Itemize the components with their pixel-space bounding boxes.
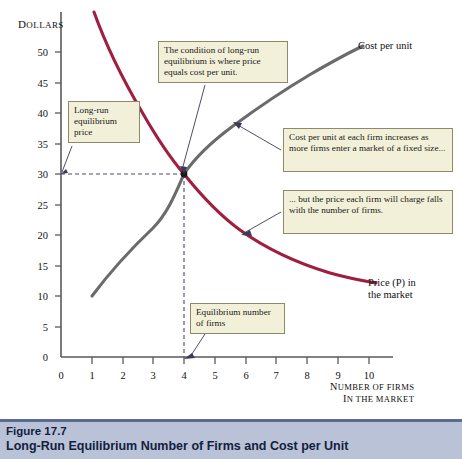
- svg-text:45: 45: [38, 78, 49, 89]
- svg-text:2: 2: [120, 370, 125, 381]
- callout-long-run-equilibrium-price: Long-run equilibrium price: [68, 101, 140, 143]
- svg-text:50: 50: [38, 47, 49, 58]
- price-market-line2: the market: [368, 289, 413, 300]
- svg-text:20: 20: [38, 230, 49, 241]
- svg-text:35: 35: [38, 139, 49, 150]
- x-axis-tick-labels: 0 1 2 3 4 5 6 7 8 9 10: [58, 370, 374, 381]
- figure-title: Long-Run Equilibrium Number of Firms and…: [6, 439, 348, 454]
- svg-text:5: 5: [212, 370, 217, 381]
- svg-text:0: 0: [43, 352, 48, 363]
- svg-text:25: 25: [38, 200, 49, 211]
- callout-equilibrium-number-of-firms: Equilibrium number of firms: [190, 303, 285, 334]
- svg-text:4: 4: [181, 370, 187, 381]
- svg-text:10: 10: [364, 370, 375, 381]
- callout-equilibrium-condition: The condition of long-run equilibrium is…: [158, 41, 288, 83]
- svg-text:10: 10: [38, 291, 49, 302]
- leader-equilibrium-firms-arrow: [184, 353, 195, 359]
- svg-text:3: 3: [150, 370, 155, 381]
- svg-text:40: 40: [38, 108, 49, 119]
- leader-price-falls: [244, 212, 281, 233]
- y-axis-ticks: [55, 52, 61, 327]
- x-axis-title-line1-text: UMBER OF FIRMS: [338, 382, 415, 392]
- svg-text:0: 0: [58, 370, 63, 381]
- leader-condition: [182, 85, 205, 170]
- svg-text:5: 5: [43, 322, 48, 333]
- caption-band: Figure 17.7 Long-Run Equilibrium Number …: [0, 419, 462, 459]
- svg-text:15: 15: [38, 261, 49, 272]
- leader-long-run-price: [62, 146, 72, 172]
- figure-number: Figure 17.7: [6, 424, 67, 438]
- leader-cost-increases: [236, 124, 281, 150]
- caption-rule: [0, 419, 462, 422]
- svg-text:7: 7: [273, 370, 278, 381]
- callout-cost-per-unit-increases: Cost per unit at each firm increases as …: [283, 128, 453, 172]
- figure-container: 0 5 10 15 20 25 30 35 40 45 50: [0, 0, 462, 459]
- x-axis-ticks: [92, 357, 369, 364]
- y-axis-title: DOLLARS: [18, 18, 64, 30]
- price-market-line1: Price (P) in: [368, 277, 416, 288]
- svg-text:1: 1: [89, 370, 94, 381]
- svg-text:8: 8: [304, 370, 309, 381]
- cost-per-unit-label: Cost per unit: [358, 40, 412, 52]
- callout-price-falls: ... but the price each firm will charge …: [283, 190, 453, 234]
- svg-text:6: 6: [243, 370, 248, 381]
- price-market-label: Price (P) in the market: [368, 277, 416, 301]
- svg-text:30: 30: [38, 169, 49, 180]
- plot-panel: 0 5 10 15 20 25 30 35 40 45 50: [0, 0, 462, 419]
- y-axis-tick-labels: 0 5 10 15 20 25 30 35 40 45 50: [38, 47, 49, 363]
- x-axis-title: NUMBER OF FIRMS IN THE MARKET: [330, 381, 414, 405]
- svg-text:9: 9: [335, 370, 340, 381]
